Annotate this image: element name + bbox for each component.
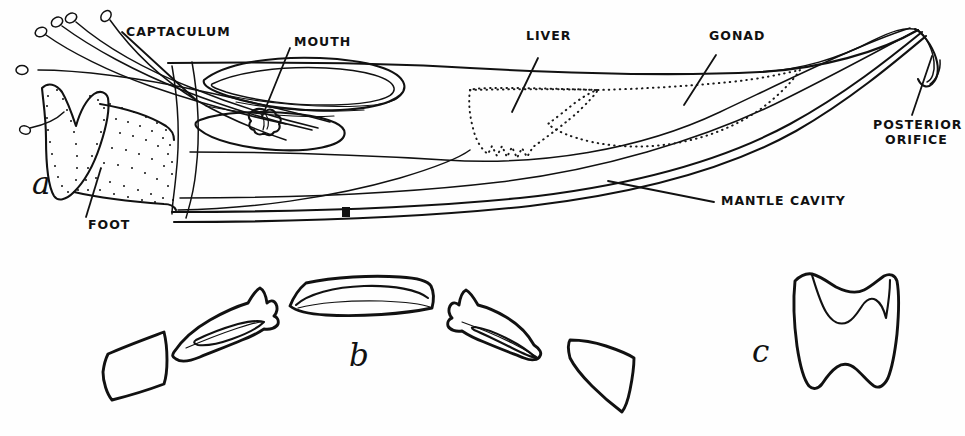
captaculum-3	[62, 26, 312, 130]
leader-foot	[86, 168, 101, 217]
radula-marginal-plate-left	[103, 332, 167, 400]
posterior-orifice-outline	[915, 29, 938, 86]
radula-central-plate-inner-arc	[296, 286, 428, 305]
captaculum-2-tip	[16, 66, 28, 75]
head-ventral-lobe	[196, 112, 345, 150]
shell-growth-mark	[342, 207, 350, 217]
panel-c-central-tooth: c	[752, 274, 899, 389]
foot-skirt	[100, 104, 174, 140]
leader-gonad	[684, 55, 716, 105]
mouth-inner-slit-2	[266, 115, 268, 129]
label-gonad: GONAD	[709, 28, 765, 43]
panel-letter-a: a	[32, 165, 50, 201]
captaculum-2	[38, 70, 330, 122]
label-captaculum: CAPTACULUM	[126, 24, 231, 39]
radula-central-plate-inner-line	[298, 301, 430, 308]
label-foot: FOOT	[88, 217, 130, 232]
central-tooth-inner-cusp	[812, 275, 890, 324]
captaculum-1-tip	[34, 25, 49, 38]
captaculum-6-tip	[19, 125, 32, 136]
label-posterior-orifice-line2: ORIFICE	[885, 132, 948, 147]
panel-letter-c: c	[752, 333, 769, 369]
label-posterior-orifice-line1: POSTERIOR	[873, 117, 962, 132]
gonad-outline	[548, 70, 800, 147]
label-mantle-cavity: MANTLE CAVITY	[721, 193, 846, 208]
mantle-collar-fold-inner	[186, 62, 198, 218]
liver-dorsal-border	[470, 89, 600, 90]
central-tooth-outline	[794, 274, 899, 389]
captaculum-6-short	[30, 112, 64, 128]
panel-a-whole-animal: CAPTACULUM MOUTH LIVER GONAD POSTERIOR O…	[16, 9, 962, 232]
shell-dorsal-inner-line	[760, 29, 918, 72]
buccal-mass-outer-lobe	[204, 58, 405, 111]
anatomy-drawing: CAPTACULUM MOUTH LIVER GONAD POSTERIOR O…	[0, 0, 965, 436]
panel-b-radula-row: b	[103, 276, 634, 412]
leader-liver	[512, 58, 538, 112]
foot-outline	[42, 85, 109, 200]
radula-marginal-plate-right	[569, 340, 635, 412]
liver-outline	[469, 88, 598, 158]
illustration-plate: CAPTACULUM MOUTH LIVER GONAD POSTERIOR O…	[0, 0, 965, 436]
label-mouth: MOUTH	[294, 34, 351, 49]
panel-letter-b: b	[349, 337, 369, 373]
label-liver: LIVER	[526, 28, 571, 43]
